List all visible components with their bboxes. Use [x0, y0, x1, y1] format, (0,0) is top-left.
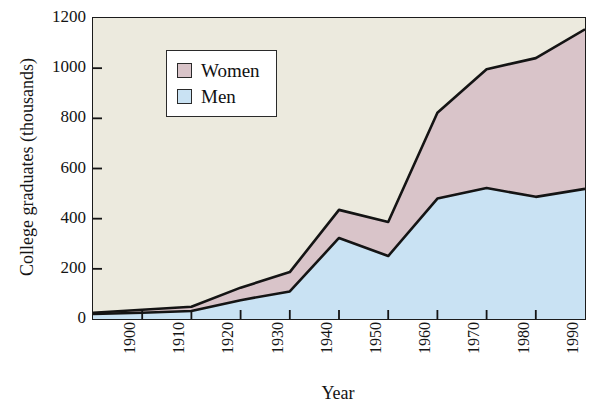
x-tick-label-1920: 1920 — [220, 322, 236, 382]
y-tick-label-1200: 1200 — [34, 8, 86, 25]
x-tick-label-1960: 1960 — [417, 322, 433, 382]
y-tick-label-1000: 1000 — [34, 58, 86, 75]
x-axis-tick-labels: 1900191019201930194019501960197019801990… — [92, 322, 584, 382]
x-tick-label-1980: 1980 — [516, 322, 532, 382]
x-axis-title: Year — [92, 384, 584, 402]
x-tick-label-1990: 1990 — [565, 322, 581, 382]
legend-item-women[interactable]: Women — [177, 57, 260, 83]
legend-label: Women — [201, 61, 260, 80]
y-tick-label-0: 0 — [34, 309, 86, 326]
area-chart-figure: College graduates (thousands) 0200400600… — [0, 0, 604, 415]
y-tick-label-200: 200 — [34, 259, 86, 276]
area-band-men — [93, 188, 585, 319]
x-tick-label-1900: 1900 — [122, 322, 138, 382]
x-tick-label-1940: 1940 — [319, 322, 335, 382]
y-tick-label-600: 600 — [34, 159, 86, 176]
y-axis-tick-labels: 020040060080010001200 — [28, 0, 86, 415]
x-tick-label-1970: 1970 — [466, 322, 482, 382]
x-tick-label-1930: 1930 — [270, 322, 286, 382]
y-tick-label-400: 400 — [34, 209, 86, 226]
y-tick-label-800: 800 — [34, 108, 86, 125]
x-tick-label-1910: 1910 — [171, 322, 187, 382]
x-tick-label-1950: 1950 — [368, 322, 384, 382]
legend-item-men[interactable]: Men — [177, 83, 260, 109]
legend-swatch-icon-men — [177, 89, 192, 104]
legend-label: Men — [201, 87, 236, 106]
chart-legend: WomenMen — [166, 50, 277, 117]
legend-swatch-icon-women — [177, 63, 192, 78]
